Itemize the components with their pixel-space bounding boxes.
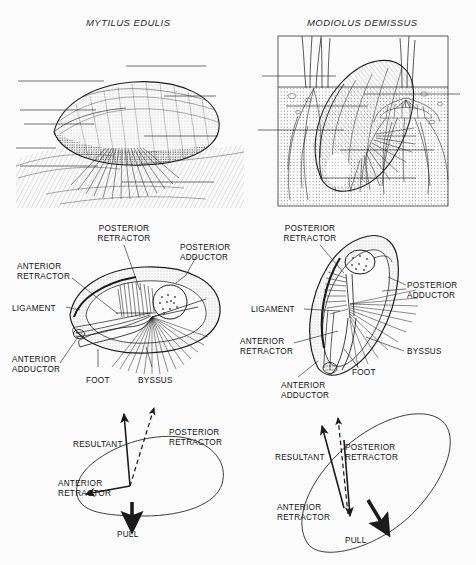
label-resultant-left: RESULTANT bbox=[73, 440, 123, 450]
label-anterior-retractor-force-left-line2: RETRACTOR bbox=[58, 489, 111, 499]
force-diagram-left bbox=[44, 404, 234, 544]
habitat-illustration-right bbox=[264, 30, 464, 210]
species-title-right: MODIOLUS DEMISSUS bbox=[307, 17, 418, 28]
label-pull-left: PULL bbox=[117, 530, 138, 540]
label-posterior-retractor-force-left-line1: POSTERIOR bbox=[169, 428, 219, 438]
anatomy-leaders-right bbox=[236, 215, 476, 400]
mussel-anatomy-figure: MYTILUS EDULIS MODIOLUS DEMISSUS bbox=[0, 0, 476, 565]
species-title-left: MYTILUS EDULIS bbox=[86, 17, 170, 28]
label-pull-right: PULL bbox=[345, 536, 366, 546]
label-anterior-retractor-force-right-line1: ANTERIOR bbox=[277, 503, 321, 513]
label-resultant-right: RESULTANT bbox=[275, 453, 325, 463]
vector-posterior-retractor-right bbox=[322, 426, 344, 508]
label-anterior-retractor-force-left-line1: ANTERIOR bbox=[58, 479, 102, 489]
anatomy-leaders-left bbox=[0, 215, 236, 390]
habitat-illustration-left bbox=[16, 48, 244, 208]
label-posterior-retractor-force-left-line2: RETRACTOR bbox=[169, 438, 222, 448]
vector-pull-right bbox=[368, 500, 386, 530]
label-anterior-retractor-force-right-line2: RETRACTOR bbox=[277, 513, 330, 523]
vector-posterior-retractor-left bbox=[124, 414, 130, 486]
vector-resultant-left bbox=[130, 408, 154, 486]
force-diagram-right bbox=[286, 404, 476, 554]
label-posterior-retractor-force-right-line2: RETRACTOR bbox=[345, 453, 398, 463]
label-posterior-retractor-force-right-line1: POSTERIOR bbox=[345, 443, 395, 453]
